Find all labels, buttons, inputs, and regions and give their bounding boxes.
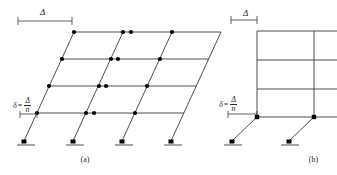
panel-b-story-drift-formula: δ = Δ n xyxy=(219,96,237,113)
panel-a-frame xyxy=(17,17,221,145)
panel-a-drift-fraction: Δ n xyxy=(24,97,31,114)
panel-b-drift-symbol: δ xyxy=(219,101,223,109)
panel-b-drift-equals: = xyxy=(224,101,229,109)
panel-a-story-drift-formula: δ = Δ n xyxy=(13,97,31,114)
panel-b-delta-label: Δ xyxy=(243,8,248,18)
panel-b-drift-fraction: Δ n xyxy=(230,96,237,113)
panel-b-drift-numerator: Δ xyxy=(230,96,237,104)
panel-a-drift-denominator: n xyxy=(25,106,31,114)
panel-a-beams xyxy=(37,32,221,113)
frame-diagram-canvas xyxy=(0,0,337,175)
panel-a-drift-symbol: δ xyxy=(13,102,17,110)
panel-b-caption: (b) xyxy=(290,155,337,164)
panel-b-soft-story-columns xyxy=(232,117,314,141)
panel-b-drift-denominator: n xyxy=(231,105,237,113)
panel-b-base-supports xyxy=(224,140,299,146)
panel-a-drift-numerator: Δ xyxy=(24,97,31,105)
panel-a-delta-dimension xyxy=(18,17,72,25)
panel-a-base-supports xyxy=(17,140,182,146)
panel-b-frame xyxy=(224,16,337,145)
panel-a-columns xyxy=(24,32,221,141)
panel-b-upper-columns xyxy=(257,31,314,117)
panel-a-caption: (a) xyxy=(60,155,110,164)
panel-a-delta-label: Δ xyxy=(40,7,45,17)
panel-b-beams xyxy=(257,31,337,117)
panel-a-drift-equals: = xyxy=(18,102,23,110)
structural-frame-figure: Δ Δ δ = Δ n δ = Δ n (a) (b) xyxy=(0,0,337,175)
